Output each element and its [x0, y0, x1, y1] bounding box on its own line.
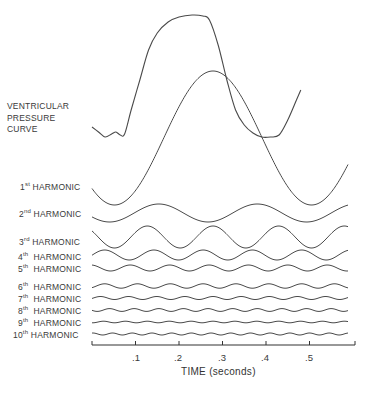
suffix: th: [23, 293, 28, 299]
label-pressure-line1: VENTRICULAR: [7, 101, 69, 113]
suffix: th: [23, 305, 28, 311]
tick-label-0.1: .1: [132, 352, 140, 363]
label-pressure-line3: CURVE: [7, 124, 69, 136]
harmonic-1-line: [92, 71, 348, 205]
harmonic-9-line: [92, 321, 348, 323]
word: HARMONIC: [34, 209, 82, 219]
label-harmonic-10: 10th HARMONIC: [13, 330, 79, 340]
label-harmonic-3: 3rd HARMONIC: [19, 237, 80, 247]
suffix: st: [25, 181, 30, 187]
suffix: rd: [24, 236, 30, 242]
word: HARMONIC: [33, 318, 81, 328]
harmonic-2-line: [92, 204, 348, 222]
tick-label-0.2: .2: [174, 352, 182, 363]
ord: 10: [13, 330, 23, 340]
suffix: nd: [24, 208, 31, 214]
harmonic-8-line: [92, 309, 348, 312]
harmonic-10-line: [92, 333, 348, 335]
label-harmonic-7: 7th HARMONIC: [18, 294, 81, 304]
harmonic-lines: [92, 71, 348, 335]
suffix: th: [23, 251, 28, 257]
tick-label-0.5: .5: [305, 352, 313, 363]
word: HARMONIC: [33, 264, 81, 274]
label-harmonic-8: 8th HARMONIC: [18, 306, 81, 316]
pressure-curve-line: [92, 15, 301, 137]
suffix: th: [23, 329, 28, 335]
word: HARMONIC: [33, 282, 81, 292]
word: HARMONIC: [33, 306, 81, 316]
word: HARMONIC: [32, 237, 80, 247]
tick-label-0.3: .3: [218, 352, 226, 363]
word: HARMONIC: [33, 182, 81, 192]
label-pressure-line2: PRESSURE: [7, 113, 69, 125]
suffix: th: [23, 281, 28, 287]
harmonic-3-line: [92, 226, 348, 248]
label-harmonic-6: 6th HARMONIC: [18, 282, 81, 292]
word: HARMONIC: [33, 252, 81, 262]
harmonic-5-line: [92, 265, 348, 271]
harmonic-4-line: [92, 250, 348, 260]
suffix: th: [23, 263, 28, 269]
x-axis-title: TIME (seconds): [181, 366, 256, 377]
label-harmonic-5: 5th HARMONIC: [18, 264, 81, 274]
label-harmonic-9: 9th HARMONIC: [18, 318, 81, 328]
harmonic-7-line: [92, 297, 348, 300]
label-pressure-curve: VENTRICULAR PRESSURE CURVE: [7, 101, 69, 136]
word: HARMONIC: [33, 294, 81, 304]
label-harmonic-4: 4th HARMONIC: [18, 252, 81, 262]
label-harmonic-2: 2nd HARMONIC: [19, 209, 81, 219]
word: HARMONIC: [31, 330, 79, 340]
suffix: th: [23, 317, 28, 323]
x-axis: [92, 341, 355, 345]
label-harmonic-1: 1st HARMONIC: [20, 182, 80, 192]
tick-label-0.4: .4: [261, 352, 269, 363]
harmonic-6-line: [92, 284, 348, 288]
